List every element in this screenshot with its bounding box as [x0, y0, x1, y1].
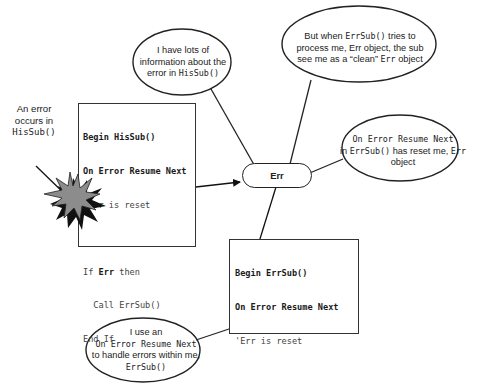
errsub-begin: Begin ErrSub(): [235, 268, 307, 278]
bubble-info-text: I have lots of information about the err…: [134, 45, 232, 80]
connector-info-to-err: [211, 89, 257, 170]
hissub-call: Call ErrSub(): [83, 300, 186, 311]
errsub-code-box: Begin ErrSub() On Error Resume Next 'Err…: [229, 239, 359, 334]
bubble-reset-text: On Error Resume Next in ErrSub() has res…: [333, 134, 473, 169]
error-occurs-label: An error occurs in HisSub(): [10, 103, 58, 138]
hissub-begin: Begin HisSub(): [83, 132, 155, 142]
hissub-if-line: If Err then: [83, 267, 186, 278]
err-object-label: Err: [242, 170, 312, 181]
errsub-on-error: On Error Resume Next: [235, 302, 338, 312]
connector-clean-to-err: [289, 80, 311, 168]
errsub-comment: 'Err is reset: [235, 336, 349, 347]
error-starburst-icon: [40, 172, 112, 240]
diagram-canvas: Begin HisSub() On Error Resume Next 'Err…: [0, 0, 478, 384]
bubble-clean-text: But when ErrSub() tries to process me, E…: [283, 31, 437, 66]
bubble-use-text: I use an On Error Resume Next to handle …: [90, 327, 202, 373]
